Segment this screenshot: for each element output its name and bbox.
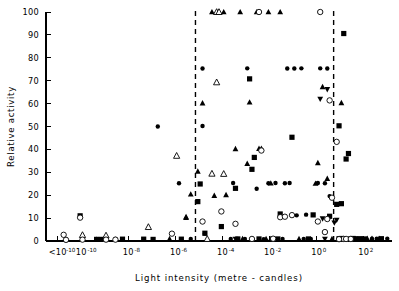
data-point bbox=[179, 237, 184, 242]
data-point bbox=[223, 192, 229, 197]
svg-text:-6: -6 bbox=[182, 247, 188, 253]
data-point bbox=[285, 66, 289, 70]
series-open-triangle-up bbox=[79, 9, 226, 242]
y-axis-ticks: 0102030405060708090100 bbox=[22, 7, 51, 246]
data-point bbox=[325, 216, 330, 221]
data-point bbox=[287, 181, 291, 185]
data-point bbox=[327, 98, 332, 103]
data-point bbox=[233, 146, 239, 151]
data-point bbox=[358, 236, 363, 241]
svg-text:-8: -8 bbox=[134, 247, 140, 253]
data-point bbox=[200, 124, 204, 128]
svg-text:10: 10 bbox=[264, 247, 275, 257]
data-point bbox=[344, 156, 349, 161]
data-point bbox=[348, 236, 353, 241]
x-tick-label: 102 bbox=[358, 247, 373, 258]
data-point bbox=[289, 135, 294, 140]
data-point bbox=[233, 186, 238, 191]
data-point bbox=[183, 215, 189, 220]
svg-text:-10: -10 bbox=[66, 247, 76, 253]
data-point bbox=[277, 9, 283, 14]
data-point bbox=[302, 237, 306, 241]
data-point bbox=[249, 236, 254, 241]
data-point bbox=[324, 87, 330, 92]
data-point bbox=[229, 237, 233, 241]
data-point bbox=[315, 219, 320, 224]
data-point bbox=[247, 99, 253, 104]
data-point bbox=[324, 176, 330, 181]
data-point bbox=[245, 66, 249, 70]
data-point bbox=[120, 237, 125, 242]
data-point bbox=[221, 171, 227, 177]
series-filled-triangle-up bbox=[167, 9, 382, 241]
data-point bbox=[385, 237, 389, 241]
data-point bbox=[338, 100, 344, 105]
data-point bbox=[202, 231, 207, 236]
data-point bbox=[334, 202, 339, 207]
data-point bbox=[195, 168, 201, 173]
data-point bbox=[233, 221, 238, 226]
data-point bbox=[219, 224, 224, 229]
data-point bbox=[331, 220, 337, 225]
y-tick-label: 90 bbox=[28, 30, 39, 40]
data-point bbox=[311, 212, 316, 217]
data-point bbox=[244, 160, 250, 165]
data-point bbox=[323, 181, 327, 185]
data-point bbox=[266, 9, 272, 14]
svg-text:10: 10 bbox=[217, 247, 228, 257]
data-point bbox=[195, 199, 200, 204]
y-tick-label: 100 bbox=[22, 7, 39, 17]
data-point bbox=[249, 167, 254, 172]
data-point bbox=[247, 76, 252, 81]
data-point bbox=[296, 236, 302, 241]
x-tick-label: 10-4 bbox=[217, 247, 235, 258]
y-tick-label: 30 bbox=[28, 167, 39, 177]
data-point bbox=[320, 84, 326, 89]
data-point bbox=[318, 66, 322, 70]
data-point bbox=[282, 214, 287, 219]
data-point bbox=[315, 160, 321, 165]
scatter-plot-figure: 0102030405060708090100<10-1010-1010-810-… bbox=[0, 0, 399, 291]
x-tick-label: 10-2 bbox=[264, 247, 281, 258]
x-axis-label: Light intensity (metre - candles) bbox=[135, 273, 303, 283]
data-point bbox=[204, 236, 210, 242]
svg-text:10: 10 bbox=[170, 247, 181, 257]
data-point bbox=[270, 236, 275, 241]
data-point bbox=[336, 123, 341, 128]
data-point bbox=[145, 224, 151, 230]
data-point bbox=[339, 201, 344, 206]
data-point bbox=[256, 9, 261, 14]
data-point bbox=[188, 191, 194, 196]
data-point bbox=[283, 181, 287, 185]
y-tick-label: 60 bbox=[28, 99, 39, 109]
data-point bbox=[280, 237, 284, 241]
data-point bbox=[231, 181, 235, 185]
data-point bbox=[150, 237, 155, 242]
data-point bbox=[219, 209, 224, 214]
y-tick-label: 70 bbox=[28, 76, 39, 86]
x-tick-label: 10-10 bbox=[76, 247, 97, 258]
y-tick-label: 50 bbox=[28, 122, 39, 132]
data-point bbox=[299, 66, 303, 70]
data-point bbox=[156, 124, 160, 128]
data-point bbox=[322, 229, 327, 234]
data-point bbox=[103, 237, 108, 242]
y-tick-label: 10 bbox=[28, 213, 39, 223]
data-point bbox=[177, 181, 181, 185]
data-point bbox=[141, 237, 146, 242]
data-point bbox=[214, 79, 220, 85]
data-point bbox=[209, 170, 215, 176]
data-point bbox=[211, 193, 217, 198]
svg-text:10: 10 bbox=[311, 247, 322, 257]
data-point bbox=[304, 212, 308, 216]
series-filled-square bbox=[78, 31, 384, 242]
data-point bbox=[94, 237, 99, 242]
x-tick-label: 10-8 bbox=[123, 247, 141, 258]
svg-text:0: 0 bbox=[323, 247, 327, 253]
data-point bbox=[252, 155, 257, 160]
x-tick-label: 100 bbox=[311, 247, 327, 258]
data-point bbox=[80, 237, 85, 242]
plot-canvas: 0102030405060708090100<10-1010-1010-810-… bbox=[0, 0, 399, 291]
annotation-lines bbox=[195, 11, 333, 241]
data-point bbox=[256, 236, 261, 241]
